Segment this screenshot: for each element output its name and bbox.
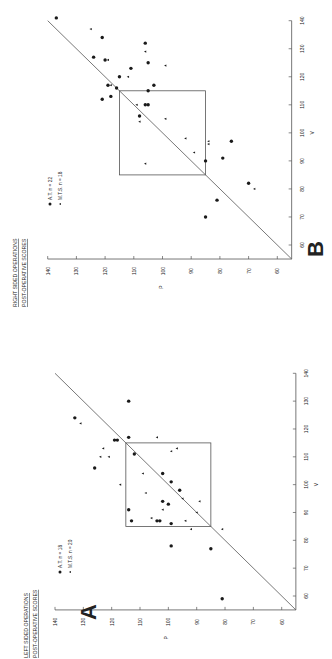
data-point-circle	[101, 98, 104, 101]
data-point-circle	[55, 16, 58, 19]
data-point-circle	[178, 489, 181, 492]
v-axis-tick-label: 90	[303, 509, 309, 515]
v-axis-tick-label: 120	[299, 72, 305, 81]
data-point-circle	[146, 103, 149, 106]
data-point-triangle	[164, 64, 166, 66]
p-axis-tick-label: 70	[246, 268, 252, 274]
p-axis-tick-label: 60	[274, 268, 280, 274]
identity-line	[48, 21, 292, 259]
data-point-circle	[247, 182, 250, 185]
data-point-triangle	[144, 50, 146, 52]
legend-marker-triangle	[59, 203, 61, 205]
p-axis-tick-label: 110	[131, 267, 137, 275]
data-point-triangle	[110, 84, 112, 86]
p-axis-tick-label: 110	[137, 618, 143, 626]
chart-subtitle: POST-OPERATIVE SCORES	[21, 238, 27, 307]
chart-panel-b: 6070809010011012013014060708090100110120…	[12, 16, 315, 307]
v-axis-tick-label: 70	[299, 214, 305, 220]
chart-panel-a: 6070809010011012013014060708090100110120…	[23, 369, 319, 658]
data-point-triangle	[107, 59, 109, 61]
data-point-triangle	[102, 447, 104, 449]
data-point-triangle	[176, 447, 178, 449]
data-point-circle	[146, 61, 149, 64]
data-point-circle	[230, 140, 233, 143]
data-point-triangle	[198, 500, 200, 502]
data-point-circle	[129, 67, 132, 70]
data-point-triangle	[142, 472, 144, 474]
data-point-circle	[130, 519, 133, 522]
p-axis-title: P	[163, 636, 169, 640]
data-point-triangle	[135, 104, 137, 106]
data-point-circle	[138, 114, 141, 117]
figure: 6070809010011012013014060708090100110120…	[0, 0, 332, 659]
data-point-circle	[221, 156, 224, 159]
data-point-circle	[133, 452, 136, 455]
data-point-circle	[204, 215, 207, 218]
data-point-triangle	[184, 137, 186, 139]
p-axis-tick-label: 120	[109, 618, 115, 627]
chart-title: LEFT SIDED OPERATIONS	[23, 592, 29, 657]
v-axis-tick-label: 80	[303, 537, 309, 543]
p-axis-tick-label: 90	[188, 268, 194, 274]
legend-marker-circle	[59, 571, 62, 574]
data-point-triangle	[221, 528, 223, 530]
legend-label: M.T.S. n = 20	[68, 539, 73, 568]
p-axis-tick-label: 100	[160, 267, 166, 276]
data-point-circle	[93, 466, 96, 469]
data-point-triangle	[164, 118, 166, 120]
data-point-triangle	[79, 422, 81, 424]
data-point-circle	[169, 480, 172, 483]
p-axis-tick-label: 70	[250, 619, 256, 625]
chart-title: RIGHT SIDED OPERATIONS	[12, 238, 18, 307]
v-axis-tick-label: 100	[303, 480, 309, 489]
v-axis-tick-label: 70	[303, 565, 309, 571]
v-axis-tick-label: 110	[299, 101, 305, 109]
v-axis-tick-label: 120	[303, 425, 309, 434]
v-axis-tick-label: 60	[303, 593, 309, 599]
p-axis-tick-label: 90	[194, 619, 200, 625]
data-point-circle	[146, 89, 149, 92]
data-point-circle	[220, 597, 223, 600]
v-axis-tick-label: 100	[299, 128, 305, 137]
data-point-circle	[215, 198, 218, 201]
data-point-circle	[103, 58, 106, 61]
data-point-triangle	[156, 436, 158, 438]
data-point-circle	[116, 438, 119, 441]
data-point-circle	[144, 41, 147, 44]
data-point-triangle	[144, 163, 146, 165]
p-axis-tick-label: 140	[45, 267, 51, 276]
p-axis-tick-label: 100	[165, 618, 171, 627]
data-point-circle	[118, 75, 121, 78]
v-axis-tick-label: 130	[299, 44, 305, 53]
p-axis-tick-label: 80	[217, 268, 223, 274]
data-point-triangle	[108, 456, 110, 458]
data-point-circle	[127, 436, 130, 439]
data-point-circle	[169, 544, 172, 547]
data-point-triangle	[138, 121, 140, 123]
data-point-triangle	[89, 28, 91, 30]
data-point-circle	[92, 55, 95, 58]
data-point-circle	[158, 519, 161, 522]
v-axis-tick-label: 80	[299, 186, 305, 192]
p-axis-tick-label: 140	[52, 618, 58, 627]
data-point-triangle	[253, 188, 255, 190]
data-point-triangle	[207, 143, 209, 145]
data-point-circle	[73, 416, 76, 419]
data-point-circle	[152, 83, 155, 86]
data-point-circle	[204, 159, 207, 162]
data-point-triangle	[207, 140, 209, 142]
legend-label: A.T. n = 22	[48, 177, 53, 200]
p-axis-tick-label: 120	[102, 267, 108, 276]
p-axis-tick-label: 130	[73, 267, 79, 276]
data-point-triangle	[127, 76, 129, 78]
data-point-triangle	[184, 520, 186, 522]
legend-marker-circle	[49, 203, 52, 206]
data-point-triangle	[170, 450, 172, 452]
data-point-circle	[209, 547, 212, 550]
data-point-circle	[101, 36, 104, 39]
v-axis-tick-label: 110	[303, 453, 309, 461]
identity-line	[55, 373, 296, 610]
data-point-circle	[106, 83, 109, 86]
data-point-triangle	[99, 456, 101, 458]
legend-label: M.T.S. n = 18	[58, 171, 63, 200]
